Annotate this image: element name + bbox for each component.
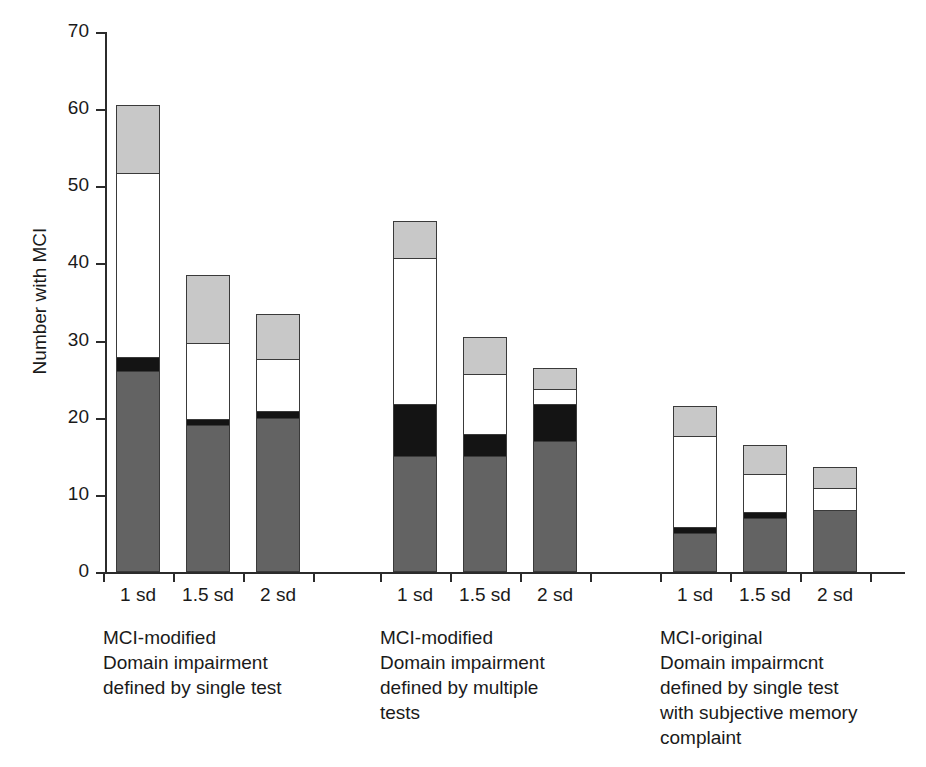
y-axis-line xyxy=(105,32,107,573)
x-axis-label: 2 sd xyxy=(233,584,323,606)
bar-segment-segment-3-white xyxy=(813,488,857,511)
group-caption-2: MCI-modified Domain impairment defined b… xyxy=(380,625,545,725)
x-axis-tick xyxy=(313,572,315,582)
x-axis-tick xyxy=(660,572,662,582)
bar-segment-segment-3-white xyxy=(463,374,507,436)
y-axis-tick: 10 xyxy=(96,495,105,497)
y-axis-title: Number with MCI xyxy=(29,181,51,421)
y-axis-tick-label: 20 xyxy=(45,406,89,428)
bar-segment-segment-3-white xyxy=(116,173,160,358)
bar-15sd-group1[interactable] xyxy=(186,271,230,572)
bar-segment-segment-1-dark-gray xyxy=(116,371,160,572)
y-axis-tick: 20 xyxy=(96,418,105,420)
group-caption-1: MCI-modified Domain impairment defined b… xyxy=(103,625,282,700)
bar-segment-segment-4-light-gray xyxy=(673,406,717,437)
y-axis-tick-label: 70 xyxy=(45,20,89,42)
bar-15sd-group3[interactable] xyxy=(743,441,787,572)
x-axis-label: 2 sd xyxy=(790,584,880,606)
bar-segment-segment-2-black xyxy=(463,434,507,457)
x-axis-tick xyxy=(450,572,452,582)
x-axis-label: 2 sd xyxy=(510,584,600,606)
x-axis-tick xyxy=(870,572,872,582)
x-axis-tick xyxy=(730,572,732,582)
bar-1sd-group1[interactable] xyxy=(116,101,160,572)
y-axis-tick-label: 60 xyxy=(45,97,89,119)
y-axis-tick: 50 xyxy=(96,186,105,188)
y-axis-tick-label: 30 xyxy=(45,329,89,351)
bar-2sd-group3[interactable] xyxy=(813,464,857,572)
y-axis-tick-label: 50 xyxy=(45,174,89,196)
bar-segment-segment-4-light-gray xyxy=(393,221,437,260)
bar-segment-segment-3-white xyxy=(186,343,230,420)
bar-segment-segment-1-dark-gray xyxy=(393,456,437,572)
bar-segment-segment-1-dark-gray xyxy=(186,425,230,572)
y-axis-tick-label: 10 xyxy=(45,483,89,505)
y-axis-tick-label: 40 xyxy=(45,251,89,273)
bar-segment-segment-3-white xyxy=(673,436,717,529)
x-axis-tick xyxy=(173,572,175,582)
bar-segment-segment-4-light-gray xyxy=(533,368,577,391)
bar-segment-segment-3-white xyxy=(256,359,300,413)
bar-15sd-group2[interactable] xyxy=(463,333,507,572)
group-caption-3: MCI-original Domain impairmcnt defined b… xyxy=(660,625,857,750)
x-axis-tick xyxy=(520,572,522,582)
bar-1sd-group3[interactable] xyxy=(673,402,717,572)
x-axis-tick xyxy=(243,572,245,582)
bar-segment-segment-4-light-gray xyxy=(463,337,507,376)
bar-segment-segment-1-dark-gray xyxy=(463,456,507,572)
bar-segment-segment-3-white xyxy=(393,258,437,405)
bar-segment-segment-1-dark-gray xyxy=(256,418,300,572)
bar-segment-segment-3-white xyxy=(743,474,787,513)
x-axis-tick xyxy=(800,572,802,582)
bar-segment-segment-4-light-gray xyxy=(813,467,857,490)
bar-1sd-group2[interactable] xyxy=(393,217,437,572)
bar-2sd-group1[interactable] xyxy=(256,310,300,572)
y-axis-tick: 70 xyxy=(96,32,105,34)
bar-segment-segment-4-light-gray xyxy=(116,105,160,174)
bar-segment-segment-4-light-gray xyxy=(743,445,787,476)
x-axis-tick xyxy=(380,572,382,582)
bar-segment-segment-3-white xyxy=(533,389,577,404)
y-axis-tick-label: 0 xyxy=(45,560,89,582)
y-axis-tick: 30 xyxy=(96,341,105,343)
stacked-bar-chart: Number with MCI 010203040506070 1 sd1.5 … xyxy=(0,0,926,767)
y-axis-tick: 60 xyxy=(96,109,105,111)
bar-segment-segment-1-dark-gray xyxy=(743,518,787,572)
bar-segment-segment-4-light-gray xyxy=(186,275,230,344)
bar-2sd-group2[interactable] xyxy=(533,364,577,572)
bar-segment-segment-4-light-gray xyxy=(256,314,300,360)
x-axis-tick xyxy=(590,572,592,582)
x-axis-tick xyxy=(103,572,105,582)
bar-segment-segment-1-dark-gray xyxy=(673,533,717,572)
bar-segment-segment-1-dark-gray xyxy=(533,441,577,572)
bar-segment-segment-2-black xyxy=(533,404,577,443)
bar-segment-segment-2-black xyxy=(116,357,160,372)
bar-segment-segment-2-black xyxy=(393,404,437,458)
bar-segment-segment-1-dark-gray xyxy=(813,510,857,572)
x-axis-line xyxy=(105,572,905,574)
y-axis-tick: 40 xyxy=(96,263,105,265)
plot-area: 010203040506070 xyxy=(105,32,905,572)
